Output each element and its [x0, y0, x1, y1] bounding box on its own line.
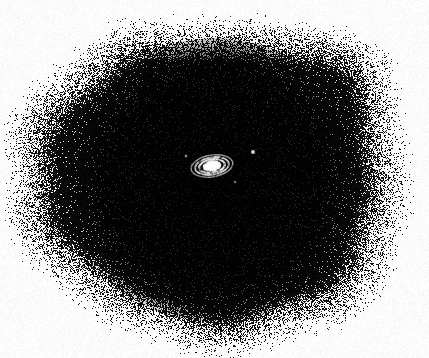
galaxy-plate-image: [0, 0, 429, 358]
halftone-galaxy-canvas: [0, 0, 429, 358]
